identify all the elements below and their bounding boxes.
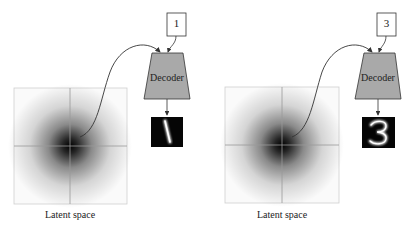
latent-space-caption-left: Latent space — [20, 209, 120, 220]
input-label-left: 1 — [167, 17, 186, 29]
vae-decoder-diagram — [0, 0, 411, 229]
panel-right — [220, 13, 401, 207]
decoder-label-right: Decoder — [355, 72, 401, 83]
decoder-label-left: Decoder — [144, 72, 190, 83]
label-arrow — [168, 36, 176, 52]
latent-space-plot — [8, 84, 132, 208]
input-label-right: 3 — [377, 17, 396, 29]
panel-left — [8, 13, 190, 208]
latent-space-caption-right: Latent space — [232, 209, 332, 220]
label-arrow — [379, 36, 386, 52]
latent-space-plot — [220, 83, 344, 207]
